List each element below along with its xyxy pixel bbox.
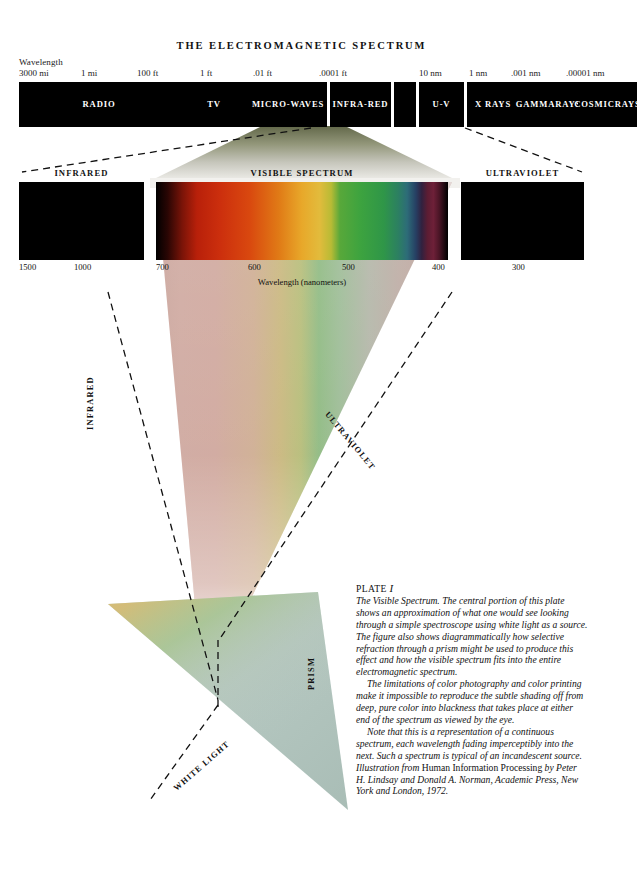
scale-infrared: 15001000 <box>19 262 144 274</box>
panel-infrared <box>19 182 144 260</box>
em-band-label: RAYS <box>615 100 641 109</box>
em-tick-5: .0001 ft <box>319 68 347 78</box>
em-band-label: TV <box>207 100 221 109</box>
prism-svg <box>100 590 390 840</box>
em-band-microwaves[interactable]: MICRO-WAVES <box>249 82 327 127</box>
prism-label: PRISM <box>307 657 316 690</box>
scale-visible: 700600500400 <box>156 262 448 274</box>
em-tick-7: 1 nm <box>469 68 487 78</box>
caption-paragraph-3: Note that this is a representation of a … <box>356 726 588 797</box>
beam-label-infrared: INFRARED <box>86 376 95 430</box>
caption-paragraph-1: The Visible Spectrum. The central portio… <box>356 595 588 678</box>
panel-ultraviolet <box>461 182 584 260</box>
visible-spectrum-gradient <box>156 182 448 260</box>
caption-book-title: Human Information Processing <box>422 762 542 773</box>
caption-plate-word: PLATE <box>356 583 387 594</box>
em-band-xrays[interactable]: X RAYS <box>467 82 519 127</box>
em-band-uv[interactable]: U-V <box>419 82 464 127</box>
em-band-label: U-V <box>433 100 451 109</box>
caption-plate-number: I <box>390 582 394 594</box>
wavelength-units-label: Wavelength (nanometers) <box>156 277 448 287</box>
page-title: THE ELECTROMAGNETIC SPECTRUM <box>0 40 603 51</box>
scale-visible-tick-2: 500 <box>342 262 355 272</box>
em-band-gammarays[interactable]: GAMMARAYS <box>519 82 578 127</box>
scale-infrared-tick-0: 1500 <box>19 262 36 272</box>
em-band-tv[interactable]: TV <box>179 82 249 127</box>
em-band-infrared[interactable]: INFRA-RED <box>330 82 391 127</box>
em-tick-0: 3000 mi <box>19 68 49 78</box>
scale-visible-tick-0: 700 <box>156 262 169 272</box>
em-tick-6: 10 nm <box>419 68 442 78</box>
scale-visible-tick-1: 600 <box>248 262 261 272</box>
panel-visible <box>156 182 448 260</box>
prism <box>100 590 390 840</box>
em-band-label: RED <box>368 100 389 109</box>
scale-ultraviolet: 300 <box>461 262 584 274</box>
panel-label-visible: VISIBLE SPECTRUM <box>156 168 448 178</box>
em-band-label: WAVES <box>290 100 324 109</box>
em-band-cosmicrays[interactable]: COSMICRAYS <box>578 82 637 127</box>
em-band-gap[interactable] <box>394 82 416 127</box>
em-band-label: X RAYS <box>475 100 511 109</box>
caption-paragraph-2: The limitations of color photography and… <box>356 678 588 726</box>
em-spectrum-bar: RADIOTVMICRO-WAVESINFRA-REDU-VX RAYSGAMM… <box>19 82 584 127</box>
em-tick-8: .001 nm <box>511 68 541 78</box>
panel-label-ultraviolet: ULTRAVIOLET <box>461 168 584 178</box>
em-tick-1: 1 mi <box>81 68 97 78</box>
em-band-label: INFRA- <box>333 100 368 109</box>
scale-ultraviolet-tick-0: 300 <box>512 262 525 272</box>
em-band-radio[interactable]: RADIO <box>19 82 179 127</box>
scale-visible-tick-3: 400 <box>432 262 445 272</box>
em-band-label: MICRO- <box>252 100 291 109</box>
plate-caption: PLATE I The Visible Spectrum. The centra… <box>356 583 588 797</box>
em-tick-9: .00001 nm <box>566 68 605 78</box>
caption-heading: PLATE I <box>356 583 588 595</box>
panel-label-infrared: INFRARED <box>19 168 144 178</box>
em-tick-3: 1 ft <box>200 68 212 78</box>
scale-infrared-tick-1: 1000 <box>74 262 91 272</box>
prism-dispersion <box>108 592 348 810</box>
spectrum-panel-row: INFRARED VISIBLE SPECTRUM ULTRAVIOLET 15… <box>0 168 603 288</box>
wavelength-scale-caption: Wavelength <box>19 57 63 67</box>
em-band-label: COSMIC <box>574 100 614 109</box>
em-scale-ticks: 3000 mi1 mi100 ft1 ft.01 ft.0001 ft10 nm… <box>19 68 584 80</box>
em-tick-2: 100 ft <box>137 68 158 78</box>
em-tick-4: .01 ft <box>253 68 272 78</box>
em-band-label: RADIO <box>83 100 116 109</box>
em-band-label: GAMMA <box>516 100 556 109</box>
